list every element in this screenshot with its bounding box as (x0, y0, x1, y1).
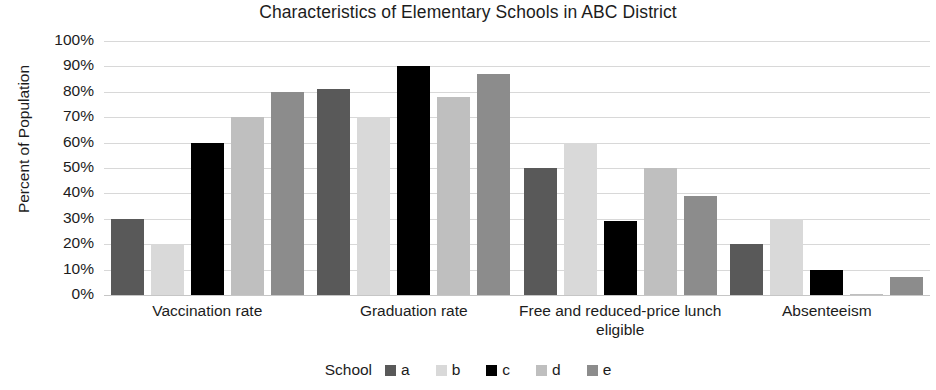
legend-label-c: c (502, 362, 510, 378)
bar-graduation-d[interactable] (437, 97, 470, 295)
bar-free-e[interactable] (684, 196, 717, 295)
legend-label-b: b (452, 362, 461, 378)
legend-swatch-b (436, 365, 447, 376)
bar-graduation-c[interactable] (397, 66, 430, 295)
legend-item-a[interactable]: a (385, 362, 410, 378)
gridline (104, 193, 930, 194)
x-axis-category-label: Absenteeism (714, 301, 936, 320)
legend-swatch-e (587, 365, 598, 376)
x-axis-category-label: Graduation rate (301, 301, 528, 320)
bar-vaccination-a[interactable] (111, 219, 144, 295)
bar-graduation-a[interactable] (317, 89, 350, 295)
gridline (104, 168, 930, 169)
y-axis-tick-label: 50% (8, 158, 94, 176)
legend-swatch-d (536, 365, 547, 376)
gridline (104, 143, 930, 144)
y-axis-tick-label: 60% (8, 133, 94, 151)
bar-graduation-b[interactable] (357, 117, 390, 295)
y-axis-tick-label: 80% (8, 82, 94, 100)
y-axis-tick-label: 40% (8, 183, 94, 201)
bar-vaccination-c[interactable] (191, 143, 224, 295)
bar-vaccination-e[interactable] (271, 92, 304, 295)
legend-label-a: a (401, 362, 410, 378)
bar-vaccination-d[interactable] (231, 117, 264, 295)
bar-graduation-e[interactable] (477, 74, 510, 295)
legend-swatch-a (385, 365, 396, 376)
legend-swatch-c (486, 365, 497, 376)
legend-item-e[interactable]: e (587, 362, 612, 378)
gridline (104, 244, 930, 245)
bar-chart: Characteristics of Elementary Schools in… (0, 0, 936, 390)
legend-item-c[interactable]: c (486, 362, 510, 378)
legend-item-d[interactable]: d (536, 362, 561, 378)
bar-absenteeism-e[interactable] (890, 277, 923, 295)
gridline (104, 295, 930, 296)
bar-absenteeism-d[interactable] (850, 294, 883, 296)
chart-legend: School abcde (0, 361, 936, 379)
y-axis-tick-label: 70% (8, 107, 94, 125)
legend-item-b[interactable]: b (436, 362, 461, 378)
y-axis-tick-label: 30% (8, 209, 94, 227)
bar-absenteeism-c[interactable] (810, 270, 843, 295)
x-axis-category-label: Free and reduced-price lunch eligible (507, 301, 734, 339)
chart-title: Characteristics of Elementary Schools in… (0, 2, 936, 23)
legend-title: School (325, 361, 372, 379)
legend-label-d: d (552, 362, 561, 378)
gridline (104, 41, 930, 42)
y-axis-tick-label: 10% (8, 260, 94, 278)
gridline (104, 92, 930, 93)
legend-label-e: e (603, 362, 612, 378)
x-axis-category-label: Vaccination rate (94, 301, 321, 320)
bar-free-a[interactable] (524, 168, 557, 295)
y-axis-tick-label: 90% (8, 56, 94, 74)
gridline (104, 117, 930, 118)
y-axis-tick-label: 20% (8, 234, 94, 252)
gridline (104, 219, 930, 220)
gridline (104, 66, 930, 67)
bar-vaccination-b[interactable] (151, 244, 184, 295)
bar-free-c[interactable] (604, 221, 637, 295)
bar-absenteeism-b[interactable] (770, 219, 803, 295)
gridline (104, 270, 930, 271)
bar-absenteeism-a[interactable] (730, 244, 763, 295)
bar-free-b[interactable] (564, 143, 597, 295)
bar-free-d[interactable] (644, 168, 677, 295)
y-axis-tick-label: 0% (8, 285, 94, 303)
y-axis-tick-label: 100% (8, 31, 94, 49)
plot-area (104, 41, 930, 295)
